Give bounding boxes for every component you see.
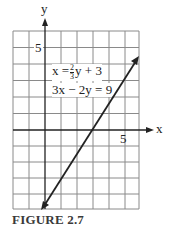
y-tick-5: 5 [34,40,43,56]
x-axis-arrow-icon [146,127,154,133]
y-axis-arrow-icon [42,18,48,26]
eq1-lhs: x = [52,63,69,78]
equation-1: x =23y + 3 [52,64,102,81]
eq1-rhs: y + 3 [75,63,102,78]
x-tick-5: 5 [120,131,127,147]
grid [13,31,139,209]
y-axis-label: y [41,1,48,17]
x-axis-label: x [156,121,163,137]
frac-den: 3 [70,73,74,81]
equation-2: 3x − 2y = 9 [52,83,112,97]
figure-caption: FIGURE 2.7 [12,212,84,228]
graph [0,0,169,239]
fraction: 23 [70,64,74,81]
